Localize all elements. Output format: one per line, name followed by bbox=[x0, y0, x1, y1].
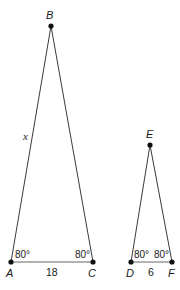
side-ef bbox=[150, 145, 172, 262]
vertex-e-label: E bbox=[146, 128, 154, 140]
triangle-def: E D F 80° 80° 6 bbox=[126, 128, 176, 279]
side-ab bbox=[11, 26, 51, 262]
side-bc bbox=[51, 26, 93, 262]
vertex-d-label: D bbox=[126, 267, 134, 279]
vertex-b-point bbox=[48, 23, 53, 28]
vertex-a-label: A bbox=[5, 267, 13, 279]
vertex-f-point bbox=[169, 259, 174, 264]
vertex-a-point bbox=[8, 259, 13, 264]
triangle-abc: B A C 80° 80° x 18 bbox=[5, 9, 96, 279]
vertex-c-label: C bbox=[88, 267, 96, 279]
angle-a-label: 80° bbox=[15, 249, 30, 260]
angle-c-label: 80° bbox=[75, 249, 90, 260]
vertex-d-point bbox=[128, 259, 133, 264]
side-de bbox=[131, 145, 150, 262]
vertex-f-label: F bbox=[168, 267, 176, 279]
vertex-e-point bbox=[147, 142, 152, 147]
angle-d-label: 80° bbox=[134, 249, 149, 260]
vertex-c-point bbox=[90, 259, 95, 264]
side-ac-label: 18 bbox=[46, 266, 58, 278]
vertex-b-label: B bbox=[46, 9, 53, 21]
side-ab-label: x bbox=[22, 130, 28, 142]
similar-triangles-diagram: B A C 80° 80° x 18 E D F 80° 80° 6 bbox=[0, 0, 180, 290]
angle-f-label: 80° bbox=[154, 249, 169, 260]
side-df-label: 6 bbox=[148, 266, 154, 278]
